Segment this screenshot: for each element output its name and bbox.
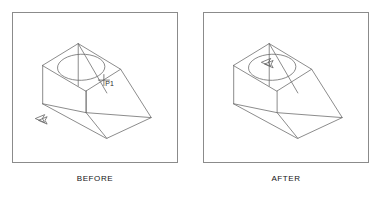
after-drawing-canvas xyxy=(204,13,368,162)
panel-before: P1 xyxy=(12,12,178,163)
solid-left-wall xyxy=(234,65,277,112)
before-drawing-canvas: P1 xyxy=(13,13,177,162)
before-after-figure: P1 BEFORE xyxy=(0,0,382,200)
cursor-arrow-icon xyxy=(35,115,47,124)
solid-left-wall xyxy=(43,65,86,112)
top-face-hole xyxy=(57,53,105,81)
solid-interior-edges xyxy=(269,44,298,139)
cursor-arrow-icon xyxy=(261,58,273,67)
solid-base-face xyxy=(234,104,343,139)
solid-base-face xyxy=(43,104,152,139)
point-marker-p1-label: P1 xyxy=(105,80,114,87)
solid-interior-edges xyxy=(78,44,107,139)
panel-after xyxy=(203,12,369,163)
caption-after: AFTER xyxy=(203,174,369,183)
caption-before: BEFORE xyxy=(12,174,178,183)
